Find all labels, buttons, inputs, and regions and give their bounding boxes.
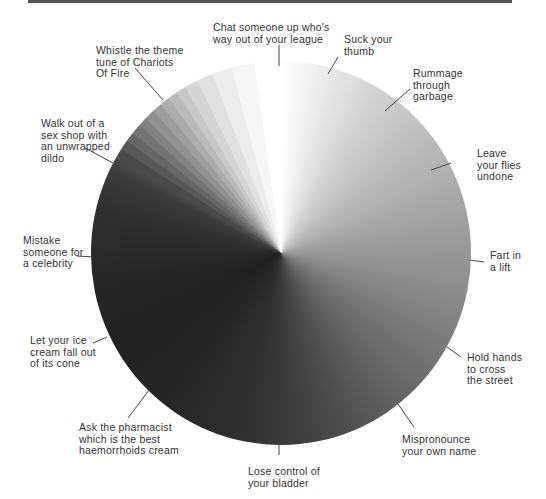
label-suck: Suck your thumb bbox=[344, 34, 393, 57]
label-mispronounce: Mispronounce your own name bbox=[402, 434, 476, 457]
leader-mispronounce bbox=[398, 404, 414, 427]
label-flies: Leave your flies undone bbox=[477, 148, 521, 183]
label-rummage: Rummage through garbage bbox=[413, 68, 463, 103]
label-pharmacist: Ask the pharmacist which is the best hae… bbox=[79, 422, 179, 457]
label-bladder: Lose control of your bladder bbox=[248, 466, 320, 489]
label-hold: Hold hands to cross the street bbox=[467, 352, 522, 387]
label-icecream: Let your ice cream fall out of its cone bbox=[30, 335, 96, 370]
label-celebrity: Mistake someone for a celebrity bbox=[23, 235, 84, 270]
leader-flies bbox=[431, 163, 451, 170]
label-chat: Chat someone up who's way out of your le… bbox=[213, 22, 330, 45]
leader-suck bbox=[328, 57, 338, 74]
label-fart: Fart in a lift bbox=[490, 250, 521, 273]
label-sexshop: Walk out of a sex shop with an unwrapped… bbox=[41, 118, 110, 164]
leader-fart bbox=[470, 260, 484, 262]
leader-rummage bbox=[385, 89, 410, 111]
leader-pharmacist bbox=[128, 390, 149, 418]
leader-hold bbox=[447, 347, 461, 357]
label-whistle: Whistle the theme tune of Chariots Of Fi… bbox=[96, 45, 183, 80]
